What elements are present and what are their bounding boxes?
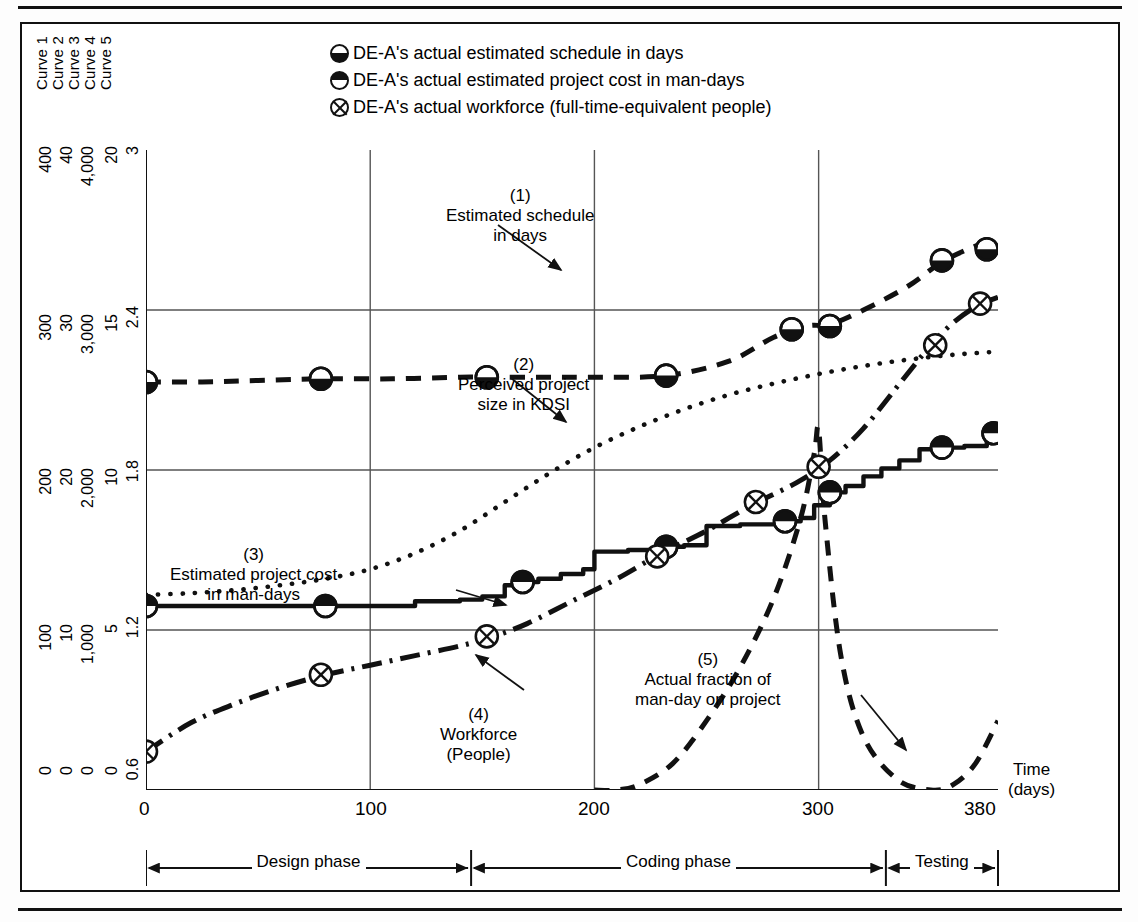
phase-bar: Design phase Coding phase Testing [146,848,1006,888]
annotation-5-line2: man-day on project [635,690,781,710]
legend-item-cost: DE-A's actual estimated project cost in … [330,67,772,94]
annotation-1-line1: Estimated schedule [446,206,594,226]
y-axis-curve-2: 40 30 20 10 0 [59,146,81,786]
y-axis-curve-4: 20 15 10 5 0 [104,146,126,786]
y-tick-c5-1p8: 1.8 [125,460,141,482]
annotation-arrow [861,695,906,750]
annotation-1: (1) Estimated schedule in days [446,186,594,246]
y-tick-c5-1p2: 1.2 [125,616,141,638]
top-divider-rule [18,6,1122,9]
y-tick-c2-30: 30 [59,314,75,332]
y-tick-c4-10: 10 [104,468,120,486]
y-tick-c3-3000: 3,000 [80,314,96,354]
phase-label-design: Design phase [252,852,366,872]
y-tick-c4-15: 15 [104,314,120,332]
annotation-3-line2: in man-days [170,585,337,605]
x-tick-300: 300 [802,798,834,820]
annotation-3-line1: Estimated project cost [170,565,337,585]
y-tick-c2-0: 0 [59,766,75,775]
plot-area [146,150,998,790]
marker-circle-with-x [745,491,767,513]
marker-circle-with-x [646,545,668,567]
marker-circle-with-x [808,456,830,478]
y-tick-c3-2000: 2,000 [80,468,96,508]
y-tick-c1-300: 300 [38,314,54,341]
y-axis-label-columns: 400 300 200 100 0 40 30 20 10 0 4,000 3,… [38,146,140,786]
marker-half-circle-bottom-filled [655,365,677,387]
annotation-5-line1: Actual fraction of [635,670,781,690]
y-tick-c3-4000: 4,000 [80,146,96,186]
data-point-markers [146,238,998,762]
annotation-1-line2: in days [446,226,594,246]
curve-name-4: Curve 4 [82,36,97,90]
annotation-2-line2: size in KDSI [458,395,589,415]
legend-label-schedule: DE-A's actual estimated schedule in days [353,43,684,64]
half-circle-bottom-filled-icon [330,44,349,63]
annotation-2-line1: Perceived project [458,375,589,395]
marker-circle-with-x [146,741,157,763]
bottom-divider-rule [18,908,1122,911]
circle-with-x-icon [330,98,349,117]
marker-half-circle-top-filled [819,481,841,503]
legend: DE-A's actual estimated schedule in days… [330,40,772,121]
marker-half-circle-top-filled [983,422,998,444]
y-tick-c1-100: 100 [38,624,54,651]
y-tick-c4-20: 20 [104,146,120,164]
marker-half-circle-bottom-filled [819,315,841,337]
curve-name-2: Curve 2 [50,36,65,90]
figure-root: Curve 1 Curve 2 Curve 3 Curve 4 Curve 5 … [0,0,1138,922]
annotation-5: (5) Actual fraction of man-day on projec… [635,650,781,710]
curve-name-3: Curve 3 [66,36,81,90]
annotation-4-id: (4) [440,705,517,725]
marker-half-circle-bottom-filled [310,368,332,390]
x-tick-100: 100 [355,798,387,820]
y-tick-c3-1000: 1,000 [80,624,96,664]
curve-name-5: Curve 5 [98,36,113,90]
phase-label-testing: Testing [910,852,974,872]
legend-label-cost: DE-A's actual estimated project cost in … [353,70,745,91]
y-tick-c2-20: 20 [59,468,75,486]
annotation-3-id: (3) [170,545,337,565]
x-axis-title: Time (days) [1008,760,1055,800]
annotation-2-id: (2) [458,355,589,375]
marker-circle-with-x [476,625,498,647]
marker-half-circle-top-filled [774,510,796,532]
y-tick-c2-40: 40 [59,146,75,164]
x-tick-200: 200 [578,798,610,820]
marker-half-circle-top-filled [512,571,534,593]
y-axis-curve-5: 3 2.4 1.8 1.2 0.6 [125,146,147,786]
annotation-3: (3) Estimated project cost in man-days [170,545,337,605]
legend-item-workforce: DE-A's actual workforce (full-time-equiv… [330,94,772,121]
phase-label-coding: Coding phase [621,852,736,872]
curve-name-1: Curve 1 [34,36,49,90]
y-tick-c4-5: 5 [104,624,120,633]
gridlines [146,150,998,790]
annotation-4-line2: (People) [440,745,517,765]
y-tick-c1-400: 400 [38,146,54,173]
y-tick-c1-0: 0 [38,766,54,775]
legend-label-workforce: DE-A's actual workforce (full-time-equiv… [353,97,772,118]
marker-circle-with-x [924,334,946,356]
marker-half-circle-bottom-filled [146,371,157,393]
marker-circle-with-x [969,293,991,315]
half-circle-top-filled-icon [330,71,349,90]
plot-svg [146,150,998,790]
y-axis-curve-3: 4,000 3,000 2,000 1,000 0 [80,146,102,786]
y-tick-c2-10: 10 [59,624,75,642]
y-tick-c5-3: 3 [125,146,141,155]
y-tick-c5-2p4: 2.4 [125,306,141,328]
marker-half-circle-bottom-filled [931,249,953,271]
annotation-4-line1: Workforce [440,725,517,745]
marker-half-circle-bottom-filled [781,318,803,340]
x-axis-title-line1: Time [1008,760,1055,780]
curve-name-column: Curve 1 Curve 2 Curve 3 Curve 4 Curve 5 [34,36,113,90]
annotation-arrow [476,655,524,690]
x-axis-title-line2: (days) [1008,780,1055,800]
marker-circle-with-x [310,664,332,686]
x-tick-380: 380 [964,798,996,820]
annotation-1-id: (1) [446,186,594,206]
marker-half-circle-top-filled [931,437,953,459]
marker-half-circle-top-filled [146,595,157,617]
y-axis-curve-1: 400 300 200 100 0 [38,146,60,786]
y-tick-c3-0: 0 [80,766,96,775]
